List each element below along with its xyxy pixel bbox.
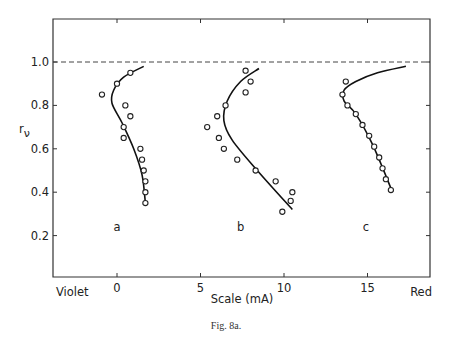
data-point-b	[221, 146, 226, 151]
data-point-a	[121, 125, 126, 130]
data-point-c	[345, 103, 350, 108]
y-tick-label: 0.6	[31, 142, 49, 156]
data-point-a	[123, 103, 128, 108]
y-tick-label: 0.8	[31, 98, 49, 112]
y-tick-label: 0.2	[31, 229, 49, 243]
chart: 0.20.40.60.81.0 051015 abc Scale (mA) rν…	[0, 0, 452, 338]
data-point-c	[343, 79, 348, 84]
x-axis-left-end-label: Violet	[56, 285, 89, 299]
y-tick-label: 1.0	[31, 55, 49, 69]
x-tick-label: 5	[197, 281, 204, 295]
data-point-c	[360, 122, 365, 127]
data-point-a	[99, 92, 104, 97]
data-point-a	[143, 179, 148, 184]
y-tick-label: 0.4	[31, 185, 49, 199]
data-point-c	[380, 166, 385, 171]
data-point-b	[243, 90, 248, 95]
y-axis-title-subscript: ν	[24, 127, 30, 140]
x-axis-right-end-label: Red	[410, 285, 432, 299]
curve-label-b: b	[237, 220, 244, 234]
data-point-b	[273, 179, 278, 184]
data-point-a	[138, 146, 143, 151]
x-tick-label: 0	[113, 281, 120, 295]
data-point-a	[121, 135, 126, 140]
curve-label-a: a	[113, 220, 120, 234]
data-point-b	[280, 209, 285, 214]
data-point-c	[377, 155, 382, 160]
data-point-a	[143, 190, 148, 195]
data-point-b	[235, 157, 240, 162]
x-axis-title: Scale (mA)	[211, 292, 274, 306]
data-point-b	[205, 125, 210, 130]
data-point-a	[128, 70, 133, 75]
data-point-c	[383, 177, 388, 182]
data-point-a	[143, 200, 148, 205]
data-point-a	[141, 168, 146, 173]
data-point-b	[215, 114, 220, 119]
data-point-c	[388, 187, 393, 192]
figure-caption: Fig. 8a.	[0, 320, 452, 331]
data-point-b	[243, 68, 248, 73]
data-point-a	[139, 157, 144, 162]
fit-curve-a	[111, 66, 145, 203]
data-point-c	[353, 111, 358, 116]
fit-curves	[111, 66, 406, 209]
data-point-b	[248, 79, 253, 84]
data-point-a	[114, 81, 119, 86]
x-tick-label: 10	[277, 281, 292, 295]
curve-labels: abc	[113, 220, 369, 234]
fit-curve-b	[224, 69, 293, 210]
curve-label-c: c	[363, 220, 369, 234]
data-point-c	[372, 144, 377, 149]
data-point-b	[253, 168, 258, 173]
fit-curve-c	[343, 66, 406, 192]
data-point-b	[288, 198, 293, 203]
data-points	[99, 68, 393, 214]
data-point-b	[216, 135, 221, 140]
y-axis-title: rν	[19, 122, 30, 140]
data-point-b	[290, 190, 295, 195]
x-tick-label: 15	[360, 281, 375, 295]
y-axis: 0.20.40.60.81.0	[31, 55, 430, 243]
data-point-c	[340, 92, 345, 97]
data-point-b	[223, 103, 228, 108]
data-point-c	[367, 133, 372, 138]
x-axis: 051015	[113, 19, 374, 295]
data-point-a	[128, 114, 133, 119]
